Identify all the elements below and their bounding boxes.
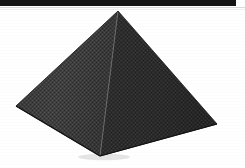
pyramid-svg xyxy=(0,0,245,168)
pyramid-right-face-shade xyxy=(100,11,217,156)
image-canvas xyxy=(0,0,245,168)
pyramid-figure xyxy=(0,0,245,168)
